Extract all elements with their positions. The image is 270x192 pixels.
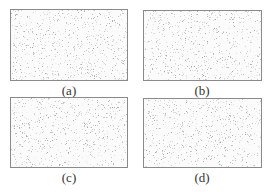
noise-panel-c: [10, 97, 128, 168]
noise-panel-a: [10, 9, 128, 81]
noise-texture-b: [144, 11, 261, 80]
caption-a: (a): [49, 84, 89, 98]
noise-texture-a: [11, 10, 127, 80]
noise-panel-b: [143, 10, 262, 81]
caption-d: (d): [182, 171, 222, 185]
caption-b: (b): [182, 84, 222, 98]
noise-texture-d: [144, 99, 261, 167]
noise-panel-d: [143, 98, 262, 168]
noise-texture-c: [11, 98, 127, 167]
caption-c: (c): [49, 171, 89, 185]
